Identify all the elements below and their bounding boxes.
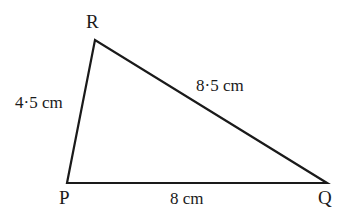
triangle-outline [67,40,327,183]
side-label-pq: 8 cm [170,190,204,207]
vertex-label-r: R [86,12,99,31]
vertex-label-p: P [59,188,70,207]
side-label-rq: 8·5 cm [196,77,244,94]
side-label-pr: 4·5 cm [15,94,63,111]
vertex-label-q: Q [318,188,332,207]
